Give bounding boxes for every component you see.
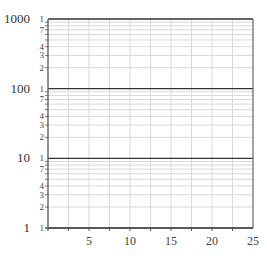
y-major-tick-label: 1000: [4, 11, 30, 26]
y-minor-tick-label: 2: [40, 132, 45, 142]
y-minor-tick-label: 7: [40, 25, 45, 35]
y-major-tick-label: 1: [24, 220, 31, 235]
x-tick-label: 5: [86, 234, 92, 248]
y-minor-tick-label: 1: [40, 84, 45, 94]
y-minor-tick-label: 7: [40, 164, 45, 174]
y-axis-major-labels: 1101001000: [4, 11, 30, 235]
y-minor-tick-label: 7: [40, 94, 45, 104]
x-tick-label: 25: [247, 234, 259, 248]
y-minor-tick-label: 3: [40, 190, 45, 200]
log-graph-paper-chart: 1101001000 1743217432174321 510152025: [0, 0, 267, 256]
x-axis-labels: 510152025: [86, 234, 259, 248]
y-minor-tick-label: 3: [40, 120, 45, 130]
y-minor-tick-label: 1: [40, 223, 45, 233]
minor-grid: [48, 19, 253, 228]
y-minor-tick-label: 2: [40, 63, 45, 73]
x-tick-label: 15: [165, 234, 177, 248]
y-minor-tick-label: 1: [40, 153, 45, 163]
y-axis-minor-labels: 1743217432174321: [40, 14, 45, 233]
y-major-tick-label: 10: [17, 150, 30, 165]
y-major-tick-label: 100: [11, 81, 31, 96]
y-minor-tick-label: 3: [40, 50, 45, 60]
y-minor-tick-label: 2: [40, 202, 45, 212]
y-minor-tick-label: 1: [40, 14, 45, 24]
x-tick-label: 10: [124, 234, 136, 248]
x-tick-label: 20: [206, 234, 218, 248]
